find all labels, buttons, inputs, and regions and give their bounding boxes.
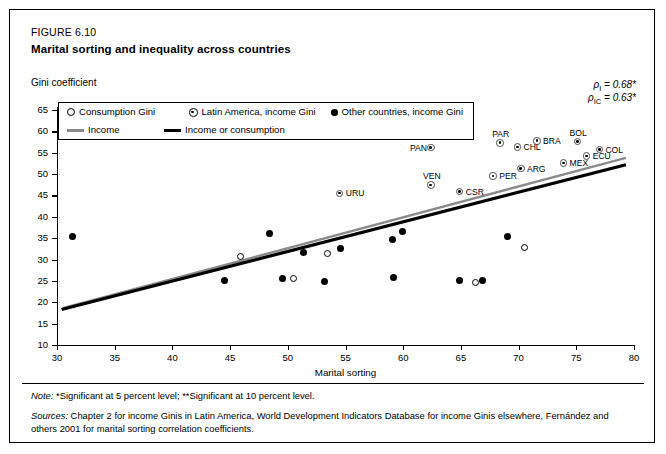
legend-item-consumption-gini: Consumption Gini — [67, 106, 155, 117]
y-tick — [52, 238, 57, 239]
legend-label-0: Consumption Gini — [79, 106, 155, 117]
point-label-uru: URU — [346, 188, 365, 198]
legend-label-3: Income — [88, 124, 119, 135]
x-tick-label: 80 — [619, 352, 649, 363]
data-point-chl — [514, 143, 522, 151]
y-tick — [52, 195, 57, 196]
y-tick-label: 45 — [26, 189, 48, 200]
x-tick-label: 55 — [331, 352, 361, 363]
x-tick — [172, 345, 173, 350]
data-point — [472, 279, 479, 286]
data-point-uru — [336, 190, 344, 198]
data-point — [399, 228, 406, 235]
note-label: Note: — [31, 390, 53, 401]
legend-item-income-or-consumption-line: Income or consumption — [164, 124, 285, 135]
trend-lines — [0, 0, 666, 454]
y-tick — [52, 110, 57, 111]
data-point-pan — [427, 144, 435, 152]
data-point — [389, 236, 396, 243]
y-tick-label: 20 — [26, 296, 48, 307]
data-point — [479, 277, 486, 284]
data-point — [237, 253, 244, 260]
x-tick-label: 60 — [388, 352, 418, 363]
y-tick — [52, 174, 57, 175]
x-tick — [288, 345, 289, 350]
y-tick-label: 40 — [26, 211, 48, 222]
x-tick-label: 70 — [504, 352, 534, 363]
y-tick-label: 25 — [26, 275, 48, 286]
data-point — [266, 230, 273, 237]
x-axis-title: Marital sorting — [246, 367, 446, 378]
x-tick — [346, 345, 347, 350]
point-label-mex: MEX — [570, 158, 589, 168]
y-tick-label: 55 — [26, 147, 48, 158]
data-point — [337, 245, 344, 252]
data-point-arg — [517, 165, 525, 173]
figure-page: FIGURE 6.10 Marital sorting and inequali… — [0, 0, 666, 454]
data-point — [290, 275, 297, 282]
data-point — [279, 275, 286, 282]
trend-line-income — [63, 158, 626, 308]
point-label-col: COL — [605, 145, 623, 155]
x-tick-label: 40 — [157, 352, 187, 363]
chart-legend: Consumption Gini Latin America, income G… — [58, 102, 474, 140]
y-tick — [52, 281, 57, 282]
point-label-bol: BOL — [570, 128, 587, 138]
data-point — [504, 233, 511, 240]
y-tick-label: 50 — [26, 168, 48, 179]
y-tick-label: 65 — [26, 104, 48, 115]
point-label-chl: CHL — [523, 142, 540, 152]
legend-item-other-countries: Other countries, income Gini — [331, 106, 463, 117]
legend-label-1: Latin America, income Gini — [202, 106, 316, 117]
note-text: *Significant at 5 percent level; **Signi… — [56, 390, 315, 401]
data-point — [321, 278, 328, 285]
data-point-par — [496, 139, 504, 147]
point-label-ven: VEN — [423, 171, 441, 181]
data-point-csr — [456, 188, 464, 196]
x-tick-label: 45 — [215, 352, 245, 363]
data-point-per — [489, 172, 497, 180]
data-point-ven — [427, 181, 435, 189]
data-point — [69, 233, 76, 240]
x-tick-label: 30 — [42, 352, 72, 363]
y-tick-label: 15 — [26, 318, 48, 329]
data-point-bol — [574, 138, 582, 146]
point-label-bra: BRA — [543, 136, 561, 146]
point-label-pan: PAN — [410, 143, 427, 153]
x-tick-label: 75 — [561, 352, 591, 363]
y-tick — [52, 345, 57, 346]
open-circle-icon — [67, 108, 75, 116]
y-tick — [52, 153, 57, 154]
legend-label-2: Other countries, income Gini — [342, 106, 464, 117]
x-tick — [115, 345, 116, 350]
x-tick-label: 65 — [446, 352, 476, 363]
x-tick — [230, 345, 231, 350]
data-point — [221, 277, 228, 284]
data-point — [390, 274, 397, 281]
data-point-mex — [560, 159, 568, 167]
y-tick — [52, 324, 57, 325]
trend-line-income-or-consumption — [62, 165, 626, 310]
y-tick-label: 35 — [26, 232, 48, 243]
y-tick — [52, 302, 57, 303]
y-tick-label: 60 — [26, 125, 48, 136]
plot-area: 3035404550556065707580101520253035404550… — [0, 0, 666, 454]
half-circle-icon — [189, 108, 198, 117]
grey-line-icon — [67, 129, 84, 132]
data-point — [521, 244, 528, 251]
data-point — [456, 277, 463, 284]
legend-row-markers: Consumption Gini Latin America, income G… — [59, 103, 473, 122]
legend-item-income-line: Income — [67, 124, 119, 135]
legend-row-lines: Income Income or consumption — [59, 121, 473, 140]
x-tick — [461, 345, 462, 350]
note-line: Note: *Significant at 5 percent level; *… — [31, 390, 631, 403]
note-separator-top — [22, 383, 644, 384]
x-tick-label: 50 — [273, 352, 303, 363]
data-point — [300, 249, 307, 256]
point-label-par: PAR — [492, 129, 509, 139]
x-tick — [634, 345, 635, 350]
data-point — [324, 250, 331, 257]
y-tick — [52, 260, 57, 261]
point-label-arg: ARG — [527, 164, 546, 174]
x-tick — [519, 345, 520, 350]
